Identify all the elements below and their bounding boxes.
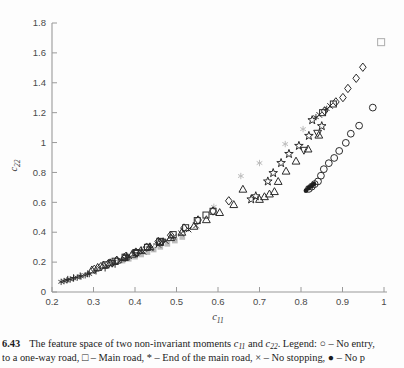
- x-tick-label: 0.2: [45, 296, 58, 307]
- y-tick-label: 1.2: [33, 107, 46, 118]
- x-tick-label: 0.9: [336, 296, 349, 307]
- y-axis-label: c22: [8, 159, 22, 171]
- series-diamonds: [91, 63, 366, 273]
- x-tick-label: 0.8: [294, 296, 307, 307]
- y-tick-label: 0.4: [33, 226, 46, 237]
- x-tick-label: 0.7: [253, 296, 266, 307]
- x-tick-label: 1: [381, 296, 386, 307]
- y-tick-label: 0.8: [33, 167, 46, 178]
- caption-line-1: 6.43The feature space of two non-invaria…: [2, 337, 404, 351]
- y-tick-label: 0.6: [33, 197, 46, 208]
- y-axis-ticks: 00.20.40.60.811.21.41.61.8: [33, 17, 57, 297]
- caption-line-2: to a one-way road, □ – Main road, * – En…: [2, 351, 404, 365]
- axes: [52, 23, 387, 292]
- y-tick-label: 1.4: [33, 77, 46, 88]
- caption-legend-start: . Legend: ○ – No entry,: [278, 338, 375, 349]
- x-tick-label: 0.3: [87, 296, 100, 307]
- y-tick-label: 1: [41, 137, 46, 148]
- series-stars: [247, 116, 326, 203]
- scatter-plot-canvas: 00.20.40.60.811.21.41.61.80.20.30.40.50.…: [0, 0, 404, 334]
- series-end-of-main-road-asterisks: [58, 106, 329, 285]
- feature-space-plot: 00.20.40.60.811.21.41.61.80.20.30.40.50.…: [0, 0, 404, 334]
- y-tick-label: 1.8: [33, 17, 46, 28]
- figure-number: 6.43: [2, 338, 20, 349]
- caption-text: The feature space of two non-invariant m…: [29, 338, 234, 349]
- y-tick-label: 0.2: [33, 256, 46, 267]
- series-main-road-squares: [103, 101, 336, 268]
- moment-c22-symbol: c22: [266, 338, 278, 349]
- x-tick-label: 0.6: [211, 296, 224, 307]
- series-gray-square-single: [378, 39, 385, 46]
- x-tick-label: 0.5: [170, 296, 183, 307]
- x-axis-label: c11: [212, 311, 224, 325]
- moment-c11-symbol: c11: [234, 338, 246, 349]
- series-no-stopping-crosses: [141, 103, 333, 254]
- x-axis-ticks: 0.20.30.40.50.60.70.80.91: [45, 287, 386, 307]
- y-tick-label: 1.6: [33, 47, 46, 58]
- figure-caption: 6.43The feature space of two non-invaria…: [2, 337, 404, 364]
- x-tick-label: 0.4: [128, 296, 141, 307]
